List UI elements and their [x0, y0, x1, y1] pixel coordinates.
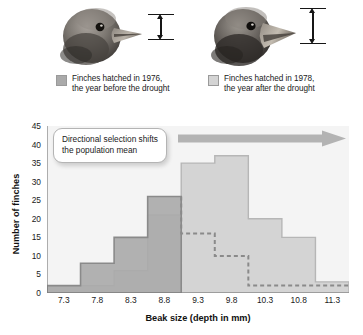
y-tick-label: 40 — [32, 140, 41, 150]
legend-swatch-1976 — [56, 75, 67, 86]
bar-series-1976 — [47, 197, 181, 293]
legend-label-1978-line1: Finches hatched in 1978, — [224, 74, 314, 83]
x-tick-label: 10.3 — [257, 295, 273, 305]
x-axis-title: Beak size (depth in mm) — [47, 313, 349, 323]
legend-item-1978: Finches hatched in 1978, the year after … — [208, 74, 315, 95]
y-tick-label: 0 — [36, 288, 41, 298]
y-tick-label: 30 — [32, 177, 41, 187]
beak-depth-caliper-icon — [148, 14, 174, 40]
y-tick-label: 25 — [32, 195, 41, 205]
finch-head-icon — [208, 3, 300, 67]
x-tick-label: 7.3 — [58, 295, 70, 305]
specimen-images — [0, 0, 363, 70]
x-tick-label: 11.3 — [324, 295, 340, 305]
specimen-finch-1978 — [190, 0, 340, 70]
y-tick-label: 45 — [32, 121, 41, 131]
y-axis-ticks: 051015202530354045 — [0, 126, 45, 293]
legend-label-1976-line2: the year before the drought — [72, 84, 169, 93]
legend-item-1976: Finches hatched in 1976, the year before… — [56, 74, 169, 95]
legend-label-1978-line2: the year after the drought — [224, 84, 315, 93]
beak-depth-caliper-icon — [300, 8, 326, 44]
legend-swatch-1978 — [208, 75, 219, 86]
x-tick-label: 9.3 — [192, 295, 204, 305]
y-tick-label: 10 — [32, 251, 41, 261]
legend-label-1976: Finches hatched in 1976, the year before… — [72, 74, 169, 95]
x-tick-label: 8.3 — [125, 295, 137, 305]
y-tick-label: 35 — [32, 158, 41, 168]
callout-directional-selection: Directional selection shifts the populat… — [53, 128, 167, 163]
beak-size-histogram: Number of finches 051015202530354045 Dir… — [0, 104, 363, 335]
x-tick-label: 8.8 — [159, 295, 171, 305]
specimen-finch-1976 — [38, 0, 188, 70]
x-tick-label: 9.8 — [226, 295, 238, 305]
rightward-shift-arrow — [178, 130, 346, 147]
series-1976-bars — [47, 197, 181, 293]
legend-label-1976-line1: Finches hatched in 1976, — [72, 74, 162, 83]
y-tick-label: 15 — [32, 232, 41, 242]
x-tick-label: 10.8 — [291, 295, 307, 305]
x-tick-label: 7.8 — [92, 295, 104, 305]
chart-legend: Finches hatched in 1976, the year before… — [0, 74, 363, 104]
finch-head-icon — [56, 3, 148, 67]
legend-label-1978: Finches hatched in 1978, the year after … — [224, 74, 315, 95]
x-axis-ticks: 7.37.88.38.89.39.810.310.811.3 — [47, 295, 349, 311]
y-tick-label: 20 — [32, 214, 41, 224]
y-tick-label: 5 — [36, 269, 41, 279]
